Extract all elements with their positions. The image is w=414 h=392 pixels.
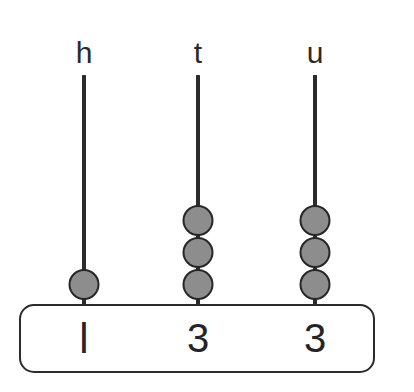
rod-label-tens: t [194, 38, 202, 68]
digit-hundreds: l [79, 318, 88, 360]
digit-units: 3 [304, 318, 326, 358]
bead-units-3[interactable] [300, 269, 331, 300]
rod-label-units: u [307, 38, 324, 68]
bead-units-2[interactable] [300, 237, 331, 268]
rod-label-hundreds: h [76, 38, 93, 68]
bead-tens-3[interactable] [183, 269, 214, 300]
bead-tens-2[interactable] [183, 237, 214, 268]
bead-hundreds-1[interactable] [69, 269, 100, 300]
bead-tens-1[interactable] [183, 205, 214, 236]
abacus-diagram: htu l33 [0, 0, 414, 392]
bead-units-1[interactable] [300, 205, 331, 236]
digit-tens: 3 [187, 318, 209, 358]
